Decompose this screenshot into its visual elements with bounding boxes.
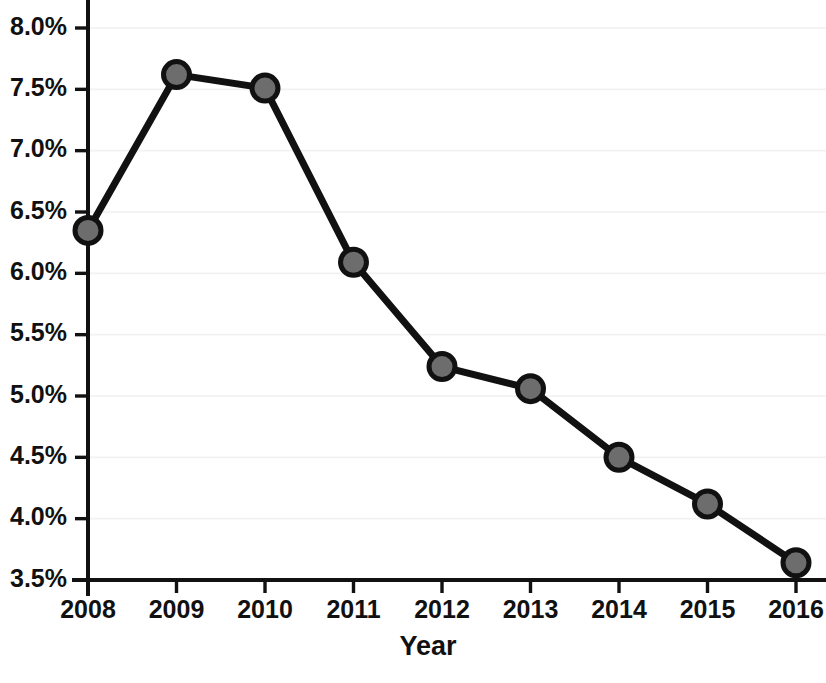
data-point-marker: [75, 217, 101, 243]
x-axis-title: Year: [399, 631, 457, 661]
y-tick-label: 4.5%: [10, 441, 67, 469]
x-tick-label: 2013: [503, 595, 559, 623]
x-axis-tick-labels: 200820092010201120122013201420152016: [60, 595, 824, 623]
data-point-marker: [518, 376, 544, 402]
data-point-marker: [429, 354, 455, 380]
y-tick-label: 5.0%: [10, 380, 67, 408]
data-point-marker: [164, 62, 190, 88]
y-tick-label: 6.5%: [10, 196, 67, 224]
x-tick-label: 2010: [237, 595, 293, 623]
y-tick-label: 3.5%: [10, 564, 67, 592]
y-tick-label: 7.5%: [10, 73, 67, 101]
data-point-marker: [695, 491, 721, 517]
x-tick-label: 2015: [680, 595, 736, 623]
data-point-marker: [341, 249, 367, 275]
x-tick-label: 2009: [149, 595, 205, 623]
data-point-marker: [783, 550, 809, 576]
x-tick-label: 2014: [591, 595, 647, 623]
y-tick-label: 5.5%: [10, 318, 67, 346]
x-tick-label: 2012: [414, 595, 470, 623]
x-tick-label: 2011: [326, 595, 380, 623]
x-tick-label: 2016: [768, 595, 824, 623]
y-tick-label: 4.0%: [10, 502, 67, 530]
line-chart: 3.5%4.0%4.5%5.0%5.5%6.0%6.5%7.0%7.5%8.0%…: [0, 0, 826, 683]
data-point-marker: [606, 444, 632, 470]
chart-container: 3.5%4.0%4.5%5.0%5.5%6.0%6.5%7.0%7.5%8.0%…: [0, 0, 826, 683]
y-tick-label: 8.0%: [10, 12, 67, 40]
x-tick-label: 2008: [60, 595, 116, 623]
data-point-marker: [252, 75, 278, 101]
y-tick-label: 7.0%: [10, 134, 67, 162]
y-tick-label: 6.0%: [10, 257, 67, 285]
